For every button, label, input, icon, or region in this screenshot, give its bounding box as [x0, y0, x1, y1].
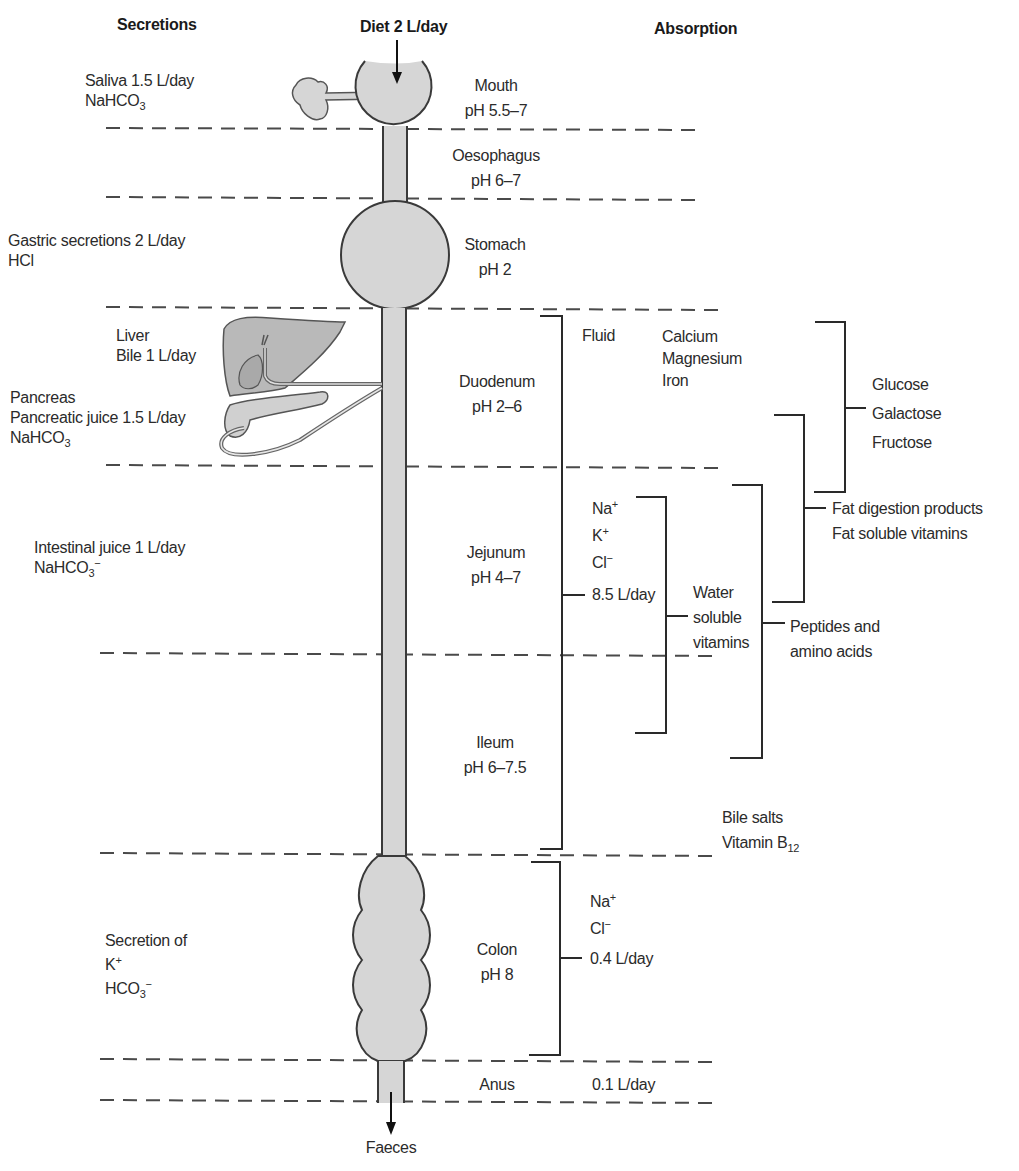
intestinal-juice-label: Intestinal juice 1 L/day NaHCO3−	[34, 538, 185, 578]
pancreas-label: Pancreas Pancreatic juice 1.5 L/day NaHC…	[10, 388, 185, 448]
sugars-label: Glucose Galactose Fructose	[872, 370, 941, 457]
small-intestine-ions-label: Na+ K+ Cl−	[592, 495, 618, 576]
segment-stomach: StomachpH 2	[464, 232, 525, 282]
segment-duodenum: DuodenumpH 2–6	[459, 369, 535, 419]
absorption-header: Absorption	[654, 20, 737, 38]
small-intestine-volume: 8.5 L/day	[592, 585, 655, 605]
water-soluble-vitamins-label: Water soluble vitamins	[693, 580, 749, 655]
colon-ions-label: Na+ Cl−	[590, 888, 616, 942]
segment-anus: Anus	[479, 1075, 514, 1095]
minerals-label: Calcium Magnesium Iron	[662, 326, 742, 392]
saliva-label: Saliva 1.5 L/day NaHCO3	[85, 71, 194, 111]
segment-ileum: IleumpH 6–7.5	[464, 730, 527, 780]
colon-secretion-label: Secretion of K+ HCO3−	[105, 929, 187, 1001]
oesophagus-shape	[383, 126, 407, 202]
stomach-shape	[341, 201, 449, 309]
secretions-header: Secretions	[117, 16, 197, 34]
segment-mouth: MouthpH 5.5–7	[465, 73, 528, 123]
pancreas-icon	[221, 388, 382, 455]
diet-header: Diet 2 L/day	[360, 18, 447, 36]
bile-salts-b12-label: Bile salts Vitamin B12	[722, 805, 799, 855]
liver-icon	[223, 317, 382, 396]
colon-volume: 0.4 L/day	[590, 949, 653, 969]
segment-jejunum: JejunumpH 4–7	[467, 540, 525, 590]
small-intestine-shape	[382, 308, 406, 856]
fats-label: Fat digestion products Fat soluble vitam…	[832, 496, 983, 546]
anus-volume: 0.1 L/day	[592, 1075, 655, 1095]
gastric-secretions-label: Gastric secretions 2 L/day HCl	[8, 231, 185, 271]
mouth-shape	[355, 61, 431, 124]
segment-colon: ColonpH 8	[477, 937, 517, 987]
peptides-label: Peptides and amino acids	[790, 614, 880, 664]
segment-oesophagus: OesophaguspH 6–7	[452, 143, 540, 193]
colon-shape	[353, 856, 430, 1061]
faeces-label: Faeces	[366, 1138, 417, 1158]
absorption-brackets	[529, 316, 866, 1055]
fluid-label: Fluid	[582, 326, 615, 346]
liver-bile-label: Liver Bile 1 L/day	[116, 326, 196, 366]
